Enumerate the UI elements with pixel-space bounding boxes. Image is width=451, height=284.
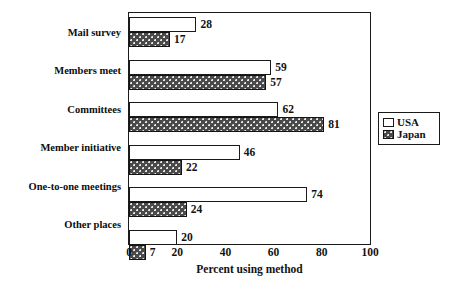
y-axis-label-5: Other places: [0, 206, 124, 245]
bar-line: 57: [129, 75, 370, 90]
x-axis-title: Percent using method: [128, 263, 371, 275]
bar-line: 22: [129, 160, 370, 175]
legend-item-usa: USA: [383, 117, 435, 128]
y-axis-label-4: One-to-one meetings: [0, 167, 124, 206]
bar-value-label: 22: [186, 159, 198, 175]
bar-line: 17: [129, 32, 370, 47]
y-axis-label-1: Members meet: [0, 52, 124, 91]
y-axis-label-2: Committees: [0, 90, 124, 129]
bar-line: 28: [129, 17, 370, 32]
bar-line: 81: [129, 117, 370, 132]
bar-usa-one-to-one-meetings: [129, 187, 307, 202]
x-axis-tick-80: 80: [316, 246, 328, 258]
bar-usa-members-meet: [129, 60, 271, 75]
bar-group: 2817: [129, 17, 370, 56]
bar-value-label: 81: [328, 116, 340, 132]
bar-group: 4622: [129, 145, 370, 184]
bar-group: 6281: [129, 102, 370, 141]
bar-line: 46: [129, 145, 370, 160]
legend-swatch-usa-icon: [383, 118, 394, 127]
bar-usa-committees: [129, 102, 278, 117]
bar-japan-mail-survey: [129, 32, 170, 47]
bar-line: 74: [129, 187, 370, 202]
x-axis-tick-0: 0: [126, 246, 132, 258]
bar-usa-member-initiative: [129, 145, 240, 160]
x-axis-tick-20: 20: [171, 246, 183, 258]
bar-japan-members-meet: [129, 75, 266, 90]
bar-usa-other-places: [129, 230, 177, 245]
y-axis-category-labels: Mail survey Members meet Committees Memb…: [0, 13, 124, 244]
chart-legend: USA Japan: [378, 112, 440, 145]
bar-line: 62: [129, 102, 370, 117]
bar-value-label: 17: [174, 31, 186, 47]
bar-value-label: 62: [282, 101, 294, 117]
x-axis-ticks: 020406080100: [128, 246, 371, 262]
x-axis-tick-100: 100: [361, 246, 378, 258]
bar-japan-member-initiative: [129, 160, 182, 175]
bar-value-label: 74: [311, 186, 323, 202]
bar-japan-one-to-one-meetings: [129, 202, 187, 217]
y-axis-label-3: Member initiative: [0, 129, 124, 168]
bar-value-label: 46: [244, 144, 256, 160]
y-axis-label-0: Mail survey: [0, 13, 124, 52]
bar-usa-mail-survey: [129, 17, 196, 32]
legend-label-japan: Japan: [397, 129, 426, 140]
bar-group: 7424: [129, 187, 370, 226]
bar-line: 59: [129, 60, 370, 75]
bar-value-label: 59: [275, 59, 287, 75]
legend-label-usa: USA: [397, 117, 419, 128]
bar-value-label: 20: [181, 229, 193, 245]
bar-chart: Mail survey Members meet Committees Memb…: [0, 0, 451, 284]
bar-line: 20: [129, 230, 370, 245]
bar-group: 5957: [129, 60, 370, 99]
legend-swatch-japan-icon: [383, 130, 394, 139]
bar-value-label: 24: [191, 201, 203, 217]
bar-groups: 28175957628146227424207: [129, 13, 370, 244]
bar-japan-committees: [129, 117, 324, 132]
legend-item-japan: Japan: [383, 129, 435, 140]
bar-line: 24: [129, 202, 370, 217]
bar-value-label: 28: [200, 16, 212, 32]
bar-value-label: 57: [270, 74, 282, 90]
x-axis-tick-40: 40: [220, 246, 232, 258]
x-axis-tick-60: 60: [268, 246, 280, 258]
